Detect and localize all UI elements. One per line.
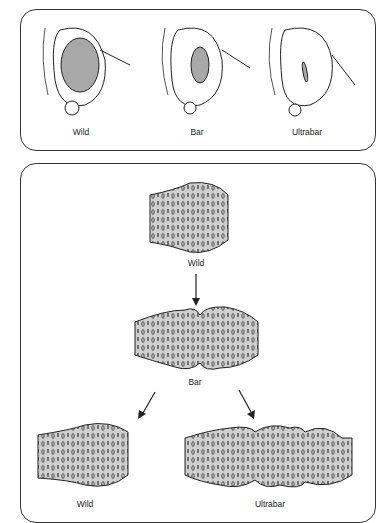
ultrabar-eye-head [269,28,355,116]
arrow-bar-to-wild [138,392,155,419]
chromosome-label-wild-top: Wild [188,258,205,268]
chromosome-label-wild-bottom: Wild [77,499,94,509]
wild-eye-head [43,28,130,115]
wild-chromosome-top [150,183,228,253]
chromosome-label-ultrabar: Ultrabar [255,499,285,509]
wild-chromosome-bottom [38,424,128,487]
bar-eye-head [162,28,250,114]
chromosome-label-bar: Bar [188,377,201,387]
eye-label-ultrabar: Ultrabar [292,127,322,137]
eye-label-wild: Wild [73,127,90,137]
bar-chromosome [135,307,258,369]
arrow-bar-to-ultrabar [239,390,255,419]
eye-label-bar: Bar [190,127,203,137]
ultrabar-chromosome [185,426,352,487]
arrow-wild-to-bar [192,274,200,306]
